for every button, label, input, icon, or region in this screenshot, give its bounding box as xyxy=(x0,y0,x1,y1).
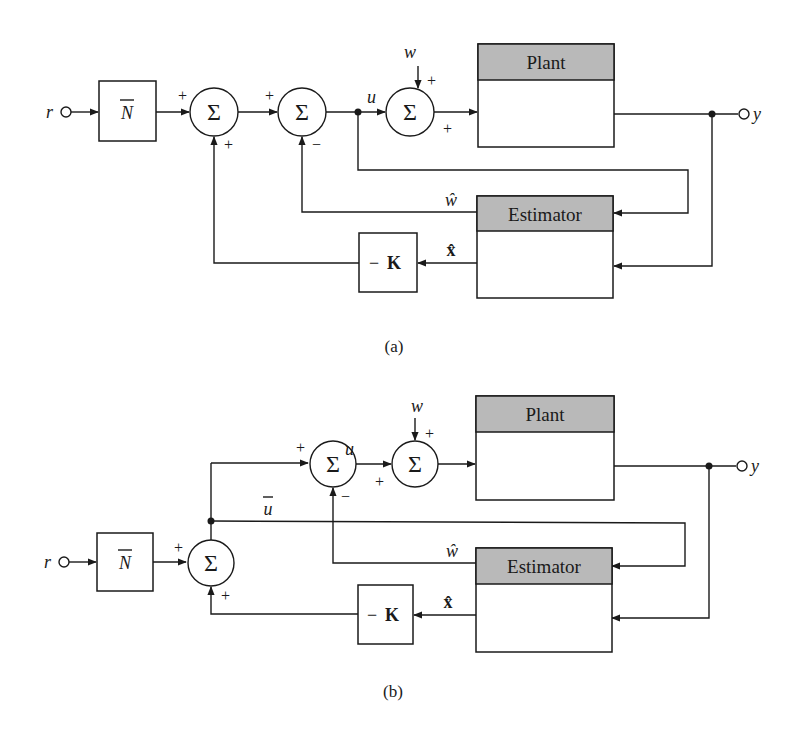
output-y-label-b: y xyxy=(749,456,759,476)
input-port xyxy=(61,107,71,117)
sum3-symbol-b: Σ xyxy=(408,451,422,477)
wire-y-to-estimator xyxy=(614,114,712,266)
sum1-symbol-b: Σ xyxy=(204,550,218,576)
sum3-sign-top-b: + xyxy=(425,425,434,442)
what-label: ŵ xyxy=(445,190,457,210)
u-label-b: u xyxy=(345,439,354,459)
neg-k-symbol-b: K xyxy=(385,605,399,625)
xhat-label: x̂ xyxy=(447,240,456,260)
output-port-b xyxy=(737,461,747,471)
neg-k-sign-b: − xyxy=(367,605,377,625)
wire-y-to-estimator-b xyxy=(612,466,709,618)
input-r-label: r xyxy=(46,102,54,122)
sum3-sign-top: + xyxy=(427,72,436,89)
neg-k-sign: − xyxy=(369,253,379,273)
nbar-label: N xyxy=(120,103,134,123)
what-label-b: ŵ xyxy=(446,541,458,561)
plant-title-b: Plant xyxy=(525,404,565,425)
input-r-label-b: r xyxy=(44,552,52,572)
wire-k-to-sum1-b xyxy=(211,587,358,614)
w-label-b: w xyxy=(411,396,423,416)
caption-a: (a) xyxy=(385,337,404,356)
estimator-title-b: Estimator xyxy=(507,556,582,577)
caption-b: (b) xyxy=(383,682,403,701)
sum2-symbol: Σ xyxy=(295,99,309,125)
diagram-a: r N Σ + + Σ + − u w Σ + + Plant xyxy=(46,42,761,356)
sum1-sign-bottom: + xyxy=(224,136,233,153)
plant-title: Plant xyxy=(526,52,566,73)
diagram-b: r N Σ + + u Σ + − u w Σ + + xyxy=(44,396,759,701)
output-y-label: y xyxy=(751,104,761,124)
xhat-label-b: x̂ xyxy=(444,592,453,612)
estimator-title: Estimator xyxy=(508,204,583,225)
sum2-sign-bottom: − xyxy=(312,136,321,153)
sum2-symbol-b: Σ xyxy=(326,451,340,477)
ubar-label: u xyxy=(264,499,273,519)
sum1-sign-left-b: + xyxy=(174,539,183,556)
nbar-label-b: N xyxy=(118,553,132,573)
input-port-b xyxy=(59,557,69,567)
w-label: w xyxy=(404,42,416,62)
sum1-sign-left: + xyxy=(178,87,187,104)
sum2-sign-left-b: + xyxy=(296,439,305,456)
block-diagram-figure: r N Σ + + Σ + − u w Σ + + Plant xyxy=(0,0,798,739)
sum3-sign-left: + xyxy=(443,120,452,137)
wire-k-to-sum1 xyxy=(214,137,359,263)
sum1-symbol: Σ xyxy=(207,99,221,125)
u-label: u xyxy=(367,87,376,107)
sum3-sign-left-b: + xyxy=(375,473,384,490)
output-port xyxy=(739,109,749,119)
sum3-symbol: Σ xyxy=(403,99,417,125)
sum2-sign-bottom-b: − xyxy=(341,488,350,505)
sum2-sign-left: + xyxy=(265,87,274,104)
sum1-sign-bottom-b: + xyxy=(221,587,230,604)
neg-k-symbol: K xyxy=(387,253,401,273)
